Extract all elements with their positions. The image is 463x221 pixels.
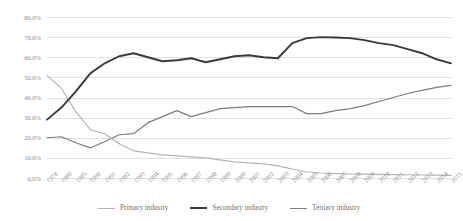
legend-label: Secondary industry [212, 204, 268, 212]
y-axis-tick-label: 0.0% [27, 175, 41, 182]
y-axis-tick-label: 30.0% [24, 114, 41, 121]
y-axis-tick-label: 60.0% [24, 54, 41, 61]
legend-label: Tertiary industry [312, 204, 360, 212]
legend-swatch-primary [98, 208, 115, 209]
series-line-tertiary [47, 85, 451, 147]
y-axis-tick-label: 10.0% [24, 154, 41, 161]
series-line-secondary [47, 37, 451, 120]
y-axis-tick-label: 20.0% [24, 134, 41, 141]
series-layer [47, 17, 451, 178]
chart-legend: Primary industrySecondary industryTertia… [0, 201, 458, 215]
y-axis-tick-label: 70.0% [24, 34, 41, 41]
legend-item[interactable]: Primary industry [98, 204, 169, 212]
legend-label: Primary industry [120, 204, 169, 212]
plot-area [47, 17, 451, 178]
legend-swatch-tertiary [290, 208, 307, 209]
legend-item[interactable]: Tertiary industry [290, 204, 360, 212]
y-axis-tick-label: 40.0% [24, 94, 41, 101]
y-axis: 80.0%70.0%60.0%50.0%40.0%30.0%20.0%10.0%… [0, 0, 45, 195]
y-axis-tick-label: 50.0% [24, 74, 41, 81]
x-axis-tick-label: 2015 [449, 170, 463, 184]
legend-swatch-secondary [190, 207, 207, 209]
series-line-primary [47, 75, 451, 175]
legend-item[interactable]: Secondary industry [190, 204, 268, 212]
y-axis-tick-label: 80.0% [24, 14, 41, 21]
x-axis: 1978198019851990199119921993199419951996… [47, 179, 451, 201]
